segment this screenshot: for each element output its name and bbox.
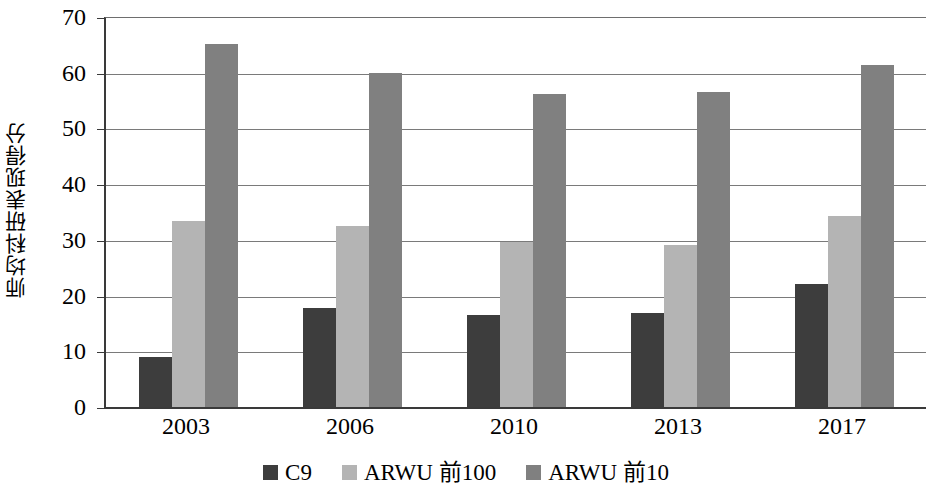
x-tick-label: 2003: [162, 414, 210, 438]
legend-label: ARWU 前100: [364, 461, 496, 484]
bar-arwu-top10: [861, 65, 894, 408]
bar-arwu-top100: [664, 245, 697, 408]
bar-c9: [795, 284, 828, 408]
y-tick-label: 60: [62, 61, 86, 85]
plot-area: [104, 17, 926, 408]
bar-arwu-top100: [500, 242, 533, 408]
y-tick-mark: [97, 352, 106, 353]
y-tick-label: 70: [62, 5, 86, 29]
bar-arwu-top10: [697, 92, 730, 408]
y-tick-label: 0: [74, 395, 86, 419]
legend-label: C9: [285, 461, 312, 484]
y-tick-mark: [97, 18, 106, 19]
y-tick-mark: [97, 408, 106, 409]
y-tick-mark: [97, 74, 106, 75]
bar-c9: [303, 308, 336, 408]
legend-label: ARWU 前10: [548, 461, 669, 484]
bar-arwu-top100: [172, 221, 205, 408]
y-tick-label: 40: [62, 172, 86, 196]
legend-swatch-icon: [263, 465, 278, 480]
bar-chart: 师均科研表现得分 010203040506070 200320062010201…: [0, 0, 932, 491]
legend-swatch-icon: [342, 465, 357, 480]
legend-item[interactable]: ARWU 前100: [342, 461, 496, 484]
bar-group: [762, 18, 926, 408]
x-tick-label: 2010: [490, 414, 538, 438]
y-tick-mark: [97, 241, 106, 242]
y-tick-label: 20: [62, 284, 86, 308]
bar-arwu-top10: [533, 94, 566, 408]
x-axis-baseline: [106, 407, 926, 409]
y-tick-label: 50: [62, 116, 86, 140]
y-tick-mark: [97, 185, 106, 186]
legend-item[interactable]: ARWU 前10: [526, 461, 669, 484]
bar-c9: [631, 313, 664, 408]
bar-group: [270, 18, 434, 408]
y-axis-title-text: 师均科研表现得分: [7, 122, 28, 298]
bar-group: [106, 18, 270, 408]
bar-group: [434, 18, 598, 408]
y-tick-label: 30: [62, 228, 86, 252]
y-axis-title: 师均科研表现得分: [0, 0, 34, 420]
bars-layer: [106, 18, 926, 408]
y-tick-mark: [97, 297, 106, 298]
bar-arwu-top10: [205, 44, 238, 408]
legend-swatch-icon: [526, 465, 541, 480]
bar-arwu-top100: [828, 216, 861, 408]
bar-group: [598, 18, 762, 408]
bar-arwu-top100: [336, 226, 369, 408]
bar-c9: [139, 357, 172, 408]
legend-item[interactable]: C9: [263, 461, 312, 484]
bar-c9: [467, 315, 500, 408]
y-axis-tick-labels: 010203040506070: [34, 0, 96, 420]
bar-arwu-top10: [369, 73, 402, 408]
y-tick-label: 10: [62, 339, 86, 363]
x-tick-label: 2013: [654, 414, 702, 438]
x-tick-label: 2006: [326, 414, 374, 438]
x-tick-label: 2017: [818, 414, 866, 438]
x-axis-tick-labels: 20032006201020132017: [104, 414, 924, 448]
y-tick-mark: [97, 129, 106, 130]
chart-legend: C9ARWU 前100ARWU 前10: [0, 455, 932, 489]
